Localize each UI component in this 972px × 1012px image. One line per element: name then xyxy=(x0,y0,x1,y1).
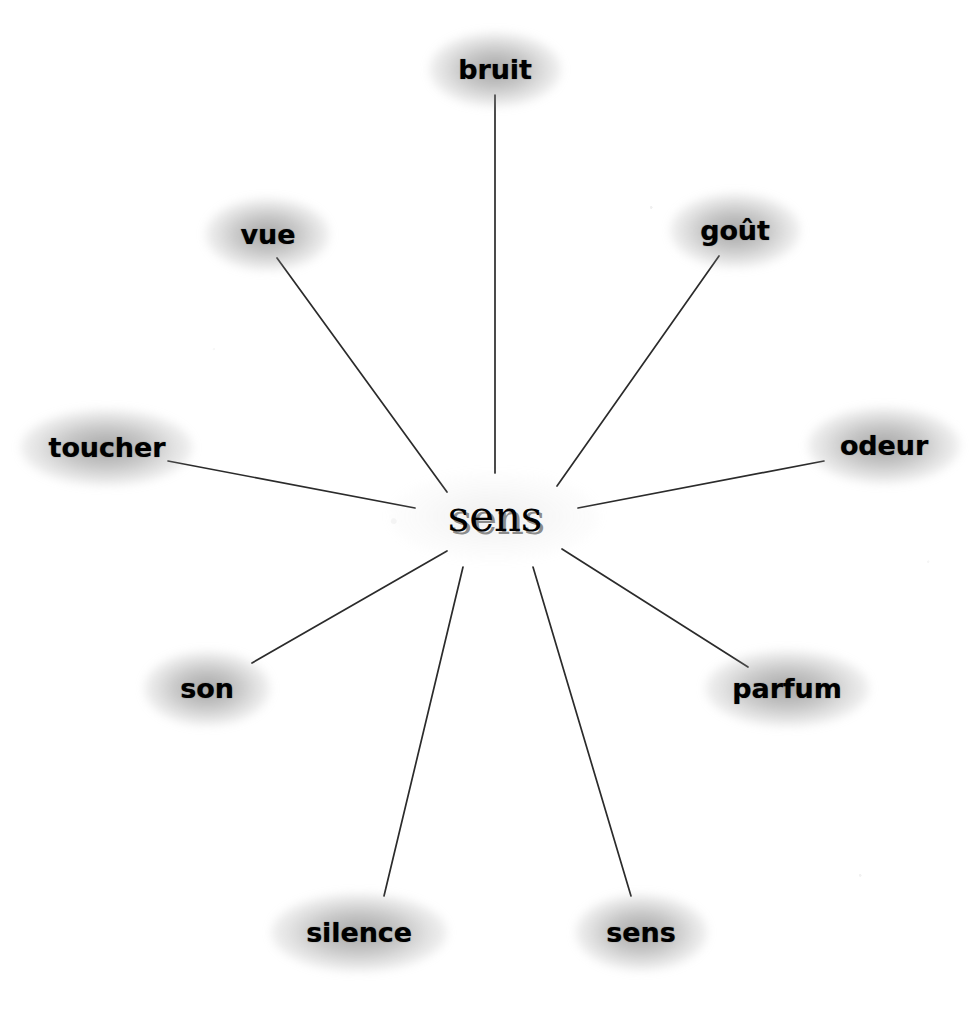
leaf-node-toucher[interactable]: toucher xyxy=(49,432,166,463)
center-node-sens[interactable]: sens xyxy=(448,492,543,541)
mind-map-canvas: bruitvuegoûttoucherodeursonparfumsilence… xyxy=(0,0,972,1012)
leaf-node-label: toucher xyxy=(49,432,166,463)
leaf-node-son[interactable]: son xyxy=(180,673,234,704)
leaf-node-gout[interactable]: goût xyxy=(700,215,770,246)
leaf-node-bruit[interactable]: bruit xyxy=(458,54,532,85)
leaf-node-label: odeur xyxy=(840,430,928,461)
leaf-node-label: silence xyxy=(306,917,412,948)
leaf-node-silence[interactable]: silence xyxy=(306,917,412,948)
leaf-node-label: vue xyxy=(241,219,296,250)
leaf-node-odeur[interactable]: odeur xyxy=(840,430,928,461)
leaf-node-label: sens xyxy=(606,917,675,948)
leaf-node-vue[interactable]: vue xyxy=(241,219,296,250)
spoke-line-odeur xyxy=(578,461,824,508)
center-node-label: sens xyxy=(448,492,543,541)
leaf-node-label: goût xyxy=(700,215,770,246)
leaf-node-label: son xyxy=(180,673,234,704)
spoke-line-gout xyxy=(557,256,719,486)
leaf-node-label: parfum xyxy=(732,673,841,704)
leaf-node-sens-leaf[interactable]: sens xyxy=(606,917,675,948)
spoke-line-sens-leaf xyxy=(533,567,631,896)
spoke-line-son xyxy=(252,551,447,663)
leaf-node-parfum[interactable]: parfum xyxy=(732,673,841,704)
spoke-line-toucher xyxy=(168,461,415,508)
spoke-line-parfum xyxy=(562,549,748,667)
leaf-node-label: bruit xyxy=(458,54,532,85)
spoke-line-vue xyxy=(277,258,447,492)
spoke-line-silence xyxy=(384,567,463,896)
